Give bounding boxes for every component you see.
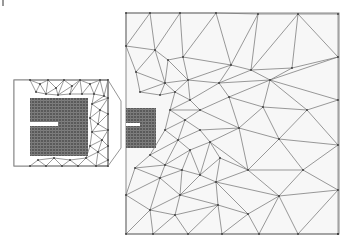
mesh-node [149, 154, 151, 156]
mesh-node [37, 159, 39, 161]
mesh-node [89, 117, 91, 119]
mesh-node [71, 85, 73, 87]
mesh-node [103, 95, 105, 97]
mesh-node [189, 149, 191, 151]
mesh-node [228, 96, 230, 98]
mesh-node [89, 83, 91, 85]
mesh-node [53, 157, 55, 159]
mesh-node [139, 91, 141, 93]
mesh-node [91, 103, 93, 105]
mesh-node [125, 233, 127, 235]
mesh-node [257, 13, 259, 15]
mesh-node [45, 93, 47, 95]
mesh-node [69, 93, 71, 95]
mesh-node [179, 12, 181, 14]
mesh-node [81, 93, 83, 95]
mesh-node [337, 99, 339, 101]
mesh-node [95, 165, 97, 167]
connector-lines [108, 80, 121, 166]
mesh-node [199, 109, 201, 111]
mesh-node [182, 56, 184, 58]
mesh-node [164, 129, 166, 131]
mesh-node [167, 59, 169, 61]
mesh-node [149, 12, 151, 14]
mesh-node [209, 141, 211, 143]
mesh-node [217, 204, 219, 206]
mesh-node [63, 79, 65, 81]
mesh-node [85, 157, 87, 159]
mesh-node [337, 144, 339, 146]
main-mesh-domain [125, 12, 339, 235]
mesh-node [337, 56, 339, 58]
mesh-node [152, 233, 154, 235]
mesh-node [57, 94, 59, 96]
mesh-node [174, 214, 176, 216]
mesh-node [215, 12, 217, 14]
mesh-node [159, 94, 161, 96]
refined-mesh-patch [126, 108, 156, 148]
mesh-node [189, 99, 191, 101]
mesh-node [101, 139, 103, 141]
mesh-node [99, 79, 101, 81]
mesh-node [125, 45, 127, 47]
mesh-node [107, 159, 109, 161]
mesh-node [337, 13, 339, 15]
mesh-node [39, 83, 41, 85]
mesh-node [107, 97, 109, 99]
mesh-node [35, 91, 37, 93]
mesh-node [179, 194, 181, 196]
inset-blank-strip [14, 80, 30, 166]
mesh-node [135, 71, 137, 73]
mesh-node [169, 109, 171, 111]
mesh-node [250, 69, 252, 71]
mesh-node [181, 169, 183, 171]
mesh-node [107, 113, 109, 115]
mesh-node [89, 145, 91, 147]
mesh-node [297, 13, 299, 15]
mesh-node [269, 79, 271, 81]
mesh-node [177, 139, 179, 141]
mesh-node [337, 233, 339, 235]
mesh-node [199, 174, 201, 176]
mesh-node [125, 194, 127, 196]
mesh-node [215, 181, 217, 183]
mesh-node [218, 82, 220, 84]
mesh-node [258, 233, 260, 235]
mesh-node [297, 233, 299, 235]
mesh-node [47, 79, 49, 81]
mesh-node [291, 67, 293, 69]
mesh-node [99, 109, 101, 111]
inset-magnified-view [14, 79, 109, 167]
mesh-node [107, 129, 109, 131]
mesh-node [77, 165, 79, 167]
mesh-node [187, 233, 189, 235]
mesh-node [55, 87, 57, 89]
mesh-node [69, 159, 71, 161]
magnification-connector [108, 80, 121, 166]
mesh-node [29, 165, 31, 167]
mesh-node [199, 129, 201, 131]
mesh-node [149, 209, 151, 211]
mesh-node [97, 123, 99, 125]
mesh-node [247, 169, 249, 171]
mesh-node [125, 12, 127, 14]
mesh-node [219, 157, 221, 159]
mesh-node [278, 138, 280, 140]
mesh-node [154, 49, 156, 51]
mesh-node [184, 119, 186, 121]
mesh-node [247, 213, 249, 215]
mesh-node [306, 109, 308, 111]
mesh-node [238, 127, 240, 129]
mesh-node [174, 91, 176, 93]
mesh-node [262, 106, 264, 108]
mesh-node [302, 169, 304, 171]
mesh-node [337, 189, 339, 191]
mesh-node [159, 177, 161, 179]
mesh-node [134, 167, 136, 169]
mesh-node [91, 131, 93, 133]
mesh-node [97, 151, 99, 153]
mesh-node [164, 164, 166, 166]
mesh-figure [0, 0, 353, 246]
mesh-node [79, 79, 81, 81]
mesh-node [221, 233, 223, 235]
